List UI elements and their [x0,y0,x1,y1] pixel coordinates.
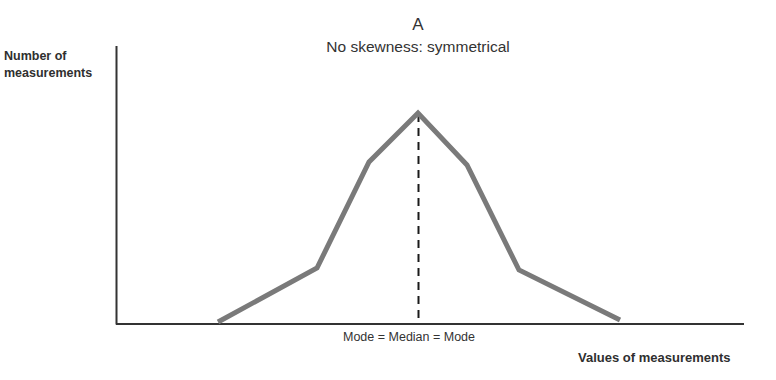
chart-plot-area [0,0,776,380]
mode-median-label: Mode = Median = Mode [343,330,475,344]
x-axis-label: Values of measurements [578,350,730,365]
